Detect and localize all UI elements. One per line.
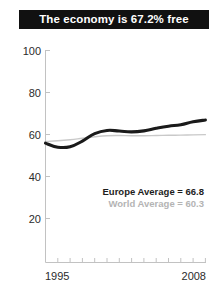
world-average-line bbox=[46, 135, 206, 142]
plot-area: 100 80 60 40 20 1995 2008 bbox=[0, 0, 219, 297]
europe-average-line bbox=[46, 120, 206, 148]
economic-freedom-chart: The economy is 67.2% free 100 80 60 40 2… bbox=[0, 0, 219, 297]
y-tick-label-20: 20 bbox=[29, 213, 41, 225]
series-lines bbox=[46, 120, 206, 148]
y-tick-label-100: 100 bbox=[23, 45, 41, 57]
legend-europe-average: Europe Average = 66.8 bbox=[60, 186, 204, 198]
x-tick-marks bbox=[46, 258, 206, 263]
x-tick-label-end: 2008 bbox=[182, 270, 206, 282]
y-tick-marks bbox=[46, 51, 51, 219]
x-tick-label-start: 1995 bbox=[45, 270, 69, 282]
chart-legend: Europe Average = 66.8 World Average = 60… bbox=[60, 186, 204, 210]
y-tick-label-60: 60 bbox=[29, 129, 41, 141]
y-tick-label-80: 80 bbox=[29, 87, 41, 99]
legend-world-average: World Average = 60.3 bbox=[60, 198, 204, 210]
y-tick-label-40: 40 bbox=[29, 171, 41, 183]
